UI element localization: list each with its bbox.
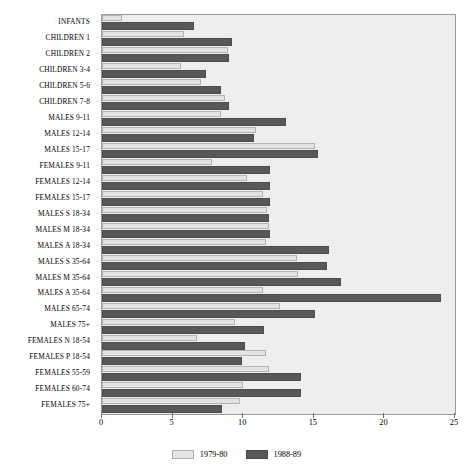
bar-1979-80 <box>102 111 221 117</box>
bar-1979-80 <box>102 319 235 325</box>
bar-1979-80 <box>102 335 197 341</box>
bar-row <box>102 206 455 222</box>
bar-1988-89 <box>102 214 269 222</box>
category-label: CHILDREN 5-6 <box>0 78 95 94</box>
bar-row <box>102 254 455 270</box>
legend-swatch-dark <box>246 450 268 459</box>
bar-1988-89 <box>102 118 286 126</box>
bar-row <box>102 79 455 95</box>
bar-1988-89 <box>102 198 270 206</box>
legend-swatch-light <box>172 450 194 459</box>
bar-row <box>102 159 455 175</box>
bar-1988-89 <box>102 373 301 381</box>
axis-tick-label: 0 <box>99 417 103 429</box>
bar-1988-89 <box>102 230 270 238</box>
category-label: FEMALES P 18-54 <box>0 349 95 365</box>
bar-1979-80 <box>102 15 122 21</box>
bar-1988-89 <box>102 54 229 62</box>
category-label: MALES A 18-34 <box>0 237 95 253</box>
bar-row <box>102 382 455 398</box>
category-label: MALES M 18-34 <box>0 221 95 237</box>
bar-1988-89 <box>102 278 341 286</box>
bar-1979-80 <box>102 31 184 37</box>
category-label: FEMALES 12-14 <box>0 174 95 190</box>
category-label: MALES 75+ <box>0 317 95 333</box>
bar-row <box>102 47 455 63</box>
bar-1979-80 <box>102 366 269 372</box>
chart-root: INFANTSCHILDREN 1CHILDREN 2CHILDREN 3-4C… <box>0 0 473 475</box>
bar-rows <box>102 15 455 414</box>
category-label: MALES M 35-64 <box>0 269 95 285</box>
bar-row <box>102 175 455 191</box>
bar-1988-89 <box>102 22 194 30</box>
bar-row <box>102 350 455 366</box>
category-label: MALES 9-11 <box>0 110 95 126</box>
category-label: FEMALES 15-17 <box>0 189 95 205</box>
category-label: FEMALES 9-11 <box>0 158 95 174</box>
axis-tick-label: 10 <box>238 417 246 429</box>
category-axis-labels: INFANTSCHILDREN 1CHILDREN 2CHILDREN 3-4C… <box>0 14 95 413</box>
bar-1988-89 <box>102 326 264 334</box>
category-label: MALES 12-14 <box>0 126 95 142</box>
category-label: INFANTS <box>0 14 95 30</box>
category-label: FEMALES N 18-54 <box>0 333 95 349</box>
bar-1979-80 <box>102 271 298 277</box>
category-label: FEMALES 55-59 <box>0 365 95 381</box>
bar-1979-80 <box>102 79 201 85</box>
bar-1988-89 <box>102 310 315 318</box>
bar-1979-80 <box>102 127 256 133</box>
axis-tick-label: 15 <box>309 417 317 429</box>
bar-row <box>102 63 455 79</box>
bar-1988-89 <box>102 38 232 46</box>
axis-tick-label: 5 <box>170 417 174 429</box>
category-label: MALES A 35-64 <box>0 285 95 301</box>
bar-row <box>102 238 455 254</box>
bar-1979-80 <box>102 255 297 261</box>
bar-row <box>102 31 455 47</box>
axis-tick-label: 25 <box>450 417 458 429</box>
bar-1988-89 <box>102 86 221 94</box>
category-label: CHILDREN 3-4 <box>0 62 95 78</box>
bar-1988-89 <box>102 150 318 158</box>
category-label: MALES S 35-64 <box>0 253 95 269</box>
bar-row <box>102 143 455 159</box>
legend-label: 1979-80 <box>200 450 228 459</box>
bar-row <box>102 15 455 31</box>
bar-1988-89 <box>102 294 441 302</box>
legend-item: 1979-80 <box>172 450 228 459</box>
category-label: MALES 15-17 <box>0 142 95 158</box>
bar-1979-80 <box>102 223 269 229</box>
chart-legend: 1979-801988-89 <box>0 450 473 459</box>
bar-1988-89 <box>102 389 301 397</box>
bar-1979-80 <box>102 287 263 293</box>
category-label: FEMALES 60-74 <box>0 381 95 397</box>
bar-1979-80 <box>102 382 243 388</box>
category-label: CHILDREN 7-8 <box>0 94 95 110</box>
legend-label: 1988-89 <box>274 450 302 459</box>
bar-row <box>102 302 455 318</box>
bar-1988-89 <box>102 134 254 142</box>
category-label: FEMALES 75+ <box>0 397 95 413</box>
bar-1979-80 <box>102 143 315 149</box>
legend-item: 1988-89 <box>246 450 302 459</box>
bar-row <box>102 398 455 414</box>
bar-1979-80 <box>102 207 267 213</box>
bar-1988-89 <box>102 342 245 350</box>
bar-1979-80 <box>102 159 212 165</box>
bar-1979-80 <box>102 239 266 245</box>
bar-1979-80 <box>102 95 225 101</box>
bar-1979-80 <box>102 191 263 197</box>
bar-1988-89 <box>102 70 206 78</box>
bar-row <box>102 190 455 206</box>
bar-1988-89 <box>102 262 327 270</box>
bar-1979-80 <box>102 63 181 69</box>
bar-1988-89 <box>102 182 270 190</box>
bar-row <box>102 95 455 111</box>
category-label: MALES 65-74 <box>0 301 95 317</box>
category-label: MALES S 18-34 <box>0 205 95 221</box>
bar-1979-80 <box>102 175 247 181</box>
bar-1988-89 <box>102 102 229 110</box>
bar-row <box>102 334 455 350</box>
x-axis-tick-labels: 0510152025 <box>0 417 473 431</box>
bar-row <box>102 318 455 334</box>
